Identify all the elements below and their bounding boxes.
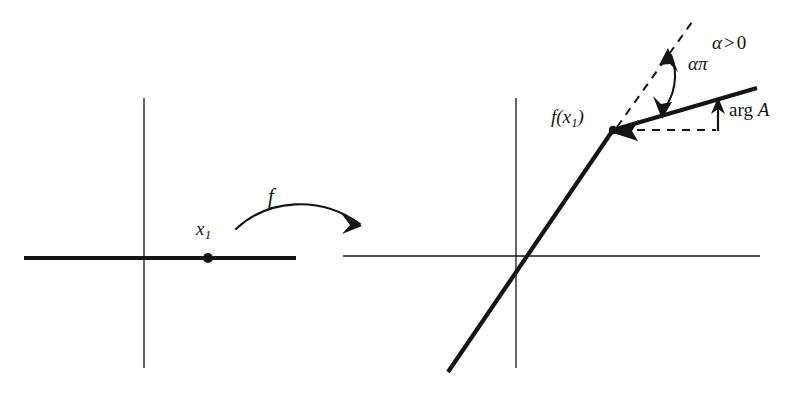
image-corner-label-subscript: 1: [571, 115, 577, 130]
alpha-condition-value: 0: [737, 32, 747, 53]
figure-canvas: [0, 0, 794, 395]
left-panel-group: [24, 98, 296, 368]
f-map-arrow-group: [236, 204, 362, 234]
image-incoming-ray: [448, 130, 613, 372]
arg-a-label-symbol: A: [753, 99, 769, 120]
image-corner-label: f(x1): [551, 107, 584, 126]
angle-label-alpha-pi: απ: [688, 54, 708, 73]
image-corner-label-prefix: f(x: [551, 106, 571, 127]
alpha-condition-symbol: α: [712, 32, 722, 53]
domain-point-label-var: x: [196, 218, 204, 239]
arg-a-label-symbol-text: A: [758, 99, 770, 120]
alpha-condition-label: α>0: [712, 33, 746, 52]
arg-a-label-prefix: arg: [729, 99, 753, 120]
math-figure: x1 f f(x1) απ α>0 arg A: [0, 0, 794, 395]
arg-a-label: arg A: [729, 100, 769, 119]
alpha-condition-operator: >: [722, 32, 737, 53]
angle-arc-arrowhead-upper-icon: [659, 48, 678, 72]
f-map-arrow-curve: [236, 204, 360, 229]
domain-point-label: x1: [196, 219, 211, 238]
map-arrow-label: f: [268, 186, 274, 207]
domain-point-label-subscript: 1: [205, 227, 211, 242]
domain-point-marker: [203, 253, 213, 263]
image-corner-point-marker: [609, 126, 617, 134]
image-corner-label-close: ): [578, 106, 584, 127]
right-panel-group: [343, 22, 760, 372]
